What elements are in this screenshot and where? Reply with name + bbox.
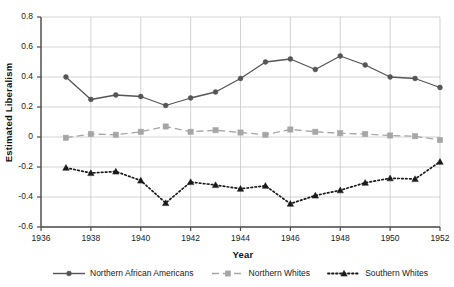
data-point-marker [338, 131, 343, 136]
series-1 [63, 124, 442, 143]
data-point-marker [88, 131, 93, 136]
data-point-marker [412, 134, 417, 139]
data-point-marker [188, 96, 193, 101]
chart-legend: Northern African AmericansNorthern White… [40, 263, 440, 283]
series-0 [64, 54, 443, 108]
data-point-marker [113, 93, 118, 98]
data-point-marker [313, 67, 318, 72]
x-tick-label: 1950 [373, 233, 407, 243]
data-point-marker [163, 103, 168, 108]
data-point-marker [138, 177, 144, 183]
legend-item-0[interactable]: Northern African Americans [52, 268, 193, 279]
legend-item-2[interactable]: Southern Whites [327, 268, 428, 279]
y-tick-label: 0.6 [7, 41, 33, 51]
series-line [66, 56, 440, 106]
legend-swatch-circle [52, 268, 86, 279]
x-tick-label: 1948 [323, 233, 357, 243]
data-point-marker [438, 85, 443, 90]
x-tick-label: 1944 [224, 233, 258, 243]
data-point-marker [63, 165, 69, 171]
series-line [66, 162, 440, 204]
y-tick-label: 0.4 [7, 71, 33, 81]
data-point-marker [388, 75, 393, 80]
data-point-marker [263, 60, 268, 65]
data-point-marker [63, 135, 68, 140]
data-point-marker [238, 130, 243, 135]
y-tick-label: 0 [7, 131, 33, 141]
data-point-marker [88, 97, 93, 102]
data-point-marker [437, 159, 443, 165]
legend-swatch-triangle [327, 268, 361, 279]
x-axis-title-wrap: Year [40, 244, 446, 262]
data-point-marker [263, 132, 268, 137]
data-point-marker [363, 131, 368, 136]
data-point-marker [225, 270, 230, 275]
data-point-marker [388, 133, 393, 138]
x-tick-label: 1942 [174, 233, 208, 243]
y-tick-label: -0.6 [7, 221, 33, 231]
series-line [66, 127, 440, 141]
data-point-marker [213, 90, 218, 95]
x-tick-label: 1940 [124, 233, 158, 243]
legend-label: Northern Whites [249, 268, 310, 278]
y-tick-label: 0.2 [7, 101, 33, 111]
data-point-marker [64, 75, 69, 80]
data-point-marker [387, 175, 393, 181]
x-axis-title: Year [233, 249, 254, 260]
x-tick-label: 1936 [24, 233, 58, 243]
data-point-marker [437, 137, 442, 142]
legend-item-1[interactable]: Northern Whites [211, 268, 310, 279]
data-point-marker [163, 124, 168, 129]
x-tick-label: 1938 [74, 233, 108, 243]
y-tick-label: -0.2 [7, 161, 33, 171]
legend-label: Southern Whites [365, 268, 428, 278]
data-point-marker [238, 76, 243, 81]
data-point-marker [138, 94, 143, 99]
data-point-marker [213, 128, 218, 133]
data-point-marker [138, 129, 143, 134]
series-2 [63, 159, 443, 207]
y-tick-label: -0.4 [7, 191, 33, 201]
data-point-marker [288, 57, 293, 62]
data-point-marker [313, 129, 318, 134]
legend-swatch-square [211, 268, 245, 279]
y-tick-label: 0.8 [7, 11, 33, 21]
data-point-marker [67, 271, 72, 276]
x-tick-label: 1946 [273, 233, 307, 243]
data-point-marker [188, 129, 193, 134]
data-point-marker [363, 63, 368, 68]
legend-label: Northern African Americans [90, 268, 193, 278]
data-point-marker [413, 76, 418, 81]
data-point-marker [113, 132, 118, 137]
data-point-marker [288, 127, 293, 132]
x-tick-label: 1952 [423, 233, 454, 243]
data-point-marker [338, 54, 343, 59]
